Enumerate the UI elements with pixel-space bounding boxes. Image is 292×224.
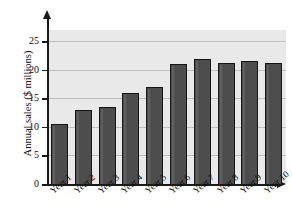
bar-highlight [243,63,245,184]
bar-highlight [101,109,103,184]
y-tick-mark-25 [42,41,49,43]
bar-highlight [220,65,222,184]
bar-year-7 [194,59,211,184]
y-tick-label-5: 5 [13,150,39,160]
bar-year-5 [146,87,163,184]
bar-highlight [196,61,198,184]
y-tick-mark-5 [42,155,49,157]
bar-highlight [77,112,79,184]
bar-highlight [267,65,269,184]
y-tick-label-25: 25 [13,36,39,46]
bar-year-10 [265,63,282,184]
bar-chart-figure: Annual sales ($ millions) 0510152025 Yea… [0,0,292,224]
y-axis-arrowhead [43,10,51,19]
y-tick-mark-20 [42,70,49,72]
y-tick-mark-10 [42,127,49,129]
bar-year-9 [241,61,258,184]
bar-highlight [124,95,126,184]
bar-highlight [172,66,174,184]
bar-year-4 [122,93,139,184]
bar-year-8 [218,63,235,184]
bar-highlight [148,89,150,184]
bar-highlight [53,126,55,184]
y-tick-mark-0 [42,184,49,186]
gridline-25 [48,41,286,42]
y-tick-label-10: 10 [13,122,39,132]
y-tick-label-20: 20 [13,65,39,75]
y-tick-label-0: 0 [13,179,39,189]
y-tick-mark-15 [42,98,49,100]
y-tick-label-15: 15 [13,93,39,103]
bar-year-6 [170,64,187,184]
